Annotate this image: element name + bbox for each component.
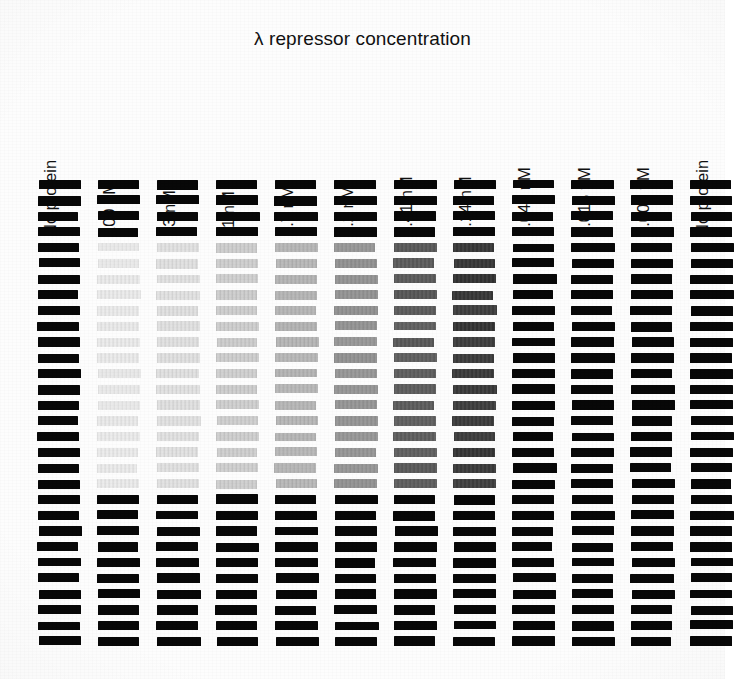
gel-band (512, 495, 554, 504)
gel-band (572, 196, 615, 205)
gel-band (334, 212, 377, 221)
gel-band (394, 542, 436, 552)
gel-band (631, 605, 672, 614)
gel-band (394, 495, 435, 504)
gel-band (275, 527, 318, 536)
gel-band (513, 463, 557, 472)
gel-band (453, 574, 496, 583)
gel-band (216, 511, 259, 521)
gel-band (157, 180, 198, 189)
gel-band (335, 622, 379, 631)
gel-band (38, 605, 81, 614)
gel-band (512, 384, 555, 394)
gel-band (691, 259, 733, 268)
gel-band-protected (275, 306, 316, 315)
gel-band-protected (275, 322, 316, 331)
gel-band (631, 212, 673, 221)
gel-band-protected (97, 322, 138, 331)
gel-band (512, 480, 555, 489)
gel-band (512, 338, 555, 347)
gel-band (512, 195, 554, 204)
gel-band-protected (275, 275, 317, 284)
gel-band-protected (394, 463, 437, 473)
gel-band (631, 385, 674, 394)
gel-band (38, 464, 80, 473)
gel-band-protected (394, 448, 437, 457)
gel-band (690, 542, 732, 551)
gel-band-protected (452, 416, 494, 426)
gel-band (38, 448, 80, 457)
gel-band (217, 637, 258, 646)
gel-band (454, 495, 495, 505)
gel-band (38, 480, 80, 489)
gel-band (38, 275, 80, 284)
gel-band (513, 290, 553, 299)
gel-band-protected (276, 479, 317, 488)
gel-band (690, 275, 732, 284)
gel-band-protected (98, 259, 139, 268)
gel-band (216, 212, 259, 222)
gel-band (631, 290, 673, 300)
gel-band-protected (334, 479, 377, 488)
gel-band (98, 637, 139, 646)
gel-band (690, 400, 733, 409)
gel-band-protected (394, 274, 436, 283)
gel-band-protected (334, 306, 378, 315)
gel-band (690, 338, 733, 347)
gel-band (571, 243, 614, 252)
gel-band (39, 180, 81, 189)
gel-band-protected (216, 259, 257, 269)
gel-band (571, 448, 614, 457)
gel-lane-5 (275, 0, 317, 679)
gel-band (276, 637, 319, 647)
gel-band (572, 495, 613, 504)
gel-band (394, 636, 436, 645)
gel-band (275, 495, 316, 504)
gel-band (156, 621, 198, 630)
gel-band-protected (157, 306, 198, 316)
gel-band-protected (394, 369, 436, 379)
gel-band (572, 558, 614, 567)
gel-band-protected (157, 337, 199, 347)
gel-band-protected (98, 369, 141, 378)
gel-band (156, 227, 197, 236)
gel-band (512, 558, 555, 567)
gel-band-protected (156, 291, 199, 301)
gel-band-protected (216, 322, 259, 331)
gel-band (216, 621, 257, 631)
gel-band (38, 401, 79, 411)
gel-band (690, 448, 734, 457)
gel-band (156, 558, 199, 568)
gel-band (572, 543, 613, 552)
gel-band (335, 542, 377, 551)
gel-band-protected (217, 338, 257, 347)
gel-band-protected (335, 448, 376, 457)
gel-band-protected (276, 416, 318, 425)
gel-band (97, 195, 140, 204)
gel-band (631, 637, 671, 646)
gel-band-protected (156, 385, 200, 394)
gel-band (513, 573, 556, 582)
gel-band-protected (97, 416, 138, 425)
gel-band-protected (157, 432, 199, 441)
gel-band (334, 180, 375, 189)
gel-band-protected (274, 463, 315, 473)
gel-band-protected (334, 337, 377, 346)
gel-band (631, 227, 673, 236)
gel-band (690, 526, 732, 536)
gel-band (571, 275, 613, 284)
gel-band-protected (217, 448, 257, 457)
gel-band-protected (97, 448, 138, 457)
gel-band (691, 463, 732, 472)
gel-band (513, 322, 554, 331)
gel-band (690, 620, 734, 629)
gel-band (513, 353, 555, 362)
gel-band (335, 589, 375, 599)
gel-band (335, 558, 376, 567)
gel-band (631, 526, 674, 536)
gel-band (632, 479, 675, 488)
gel-band (39, 636, 81, 645)
gel-band-protected (276, 337, 319, 346)
gel-band (631, 259, 674, 268)
